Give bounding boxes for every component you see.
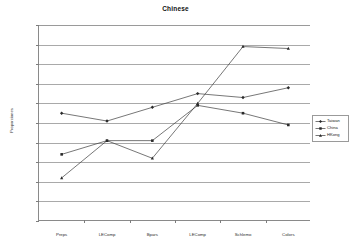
legend-label: China	[327, 126, 338, 130]
legend-item-china[interactable]: China	[314, 125, 347, 132]
legend-label: HKong	[327, 133, 340, 137]
data-point	[60, 112, 63, 115]
data-point	[151, 139, 154, 142]
legend-label: Taiwan	[327, 119, 340, 123]
series-line	[62, 47, 289, 178]
legend-marker-icon	[315, 119, 326, 124]
y-axis-label: Proporciones	[9, 86, 14, 156]
data-point	[287, 124, 290, 127]
series-hkong	[60, 45, 290, 179]
data-point	[60, 153, 63, 156]
series-layer	[39, 25, 311, 221]
data-point	[242, 112, 245, 115]
data-point	[241, 96, 244, 99]
data-point	[196, 92, 199, 95]
legend-marker-icon	[315, 133, 326, 138]
series-taiwan	[60, 86, 290, 123]
series-china	[60, 104, 289, 156]
legend-marker-icon	[315, 126, 326, 131]
data-point	[287, 86, 290, 89]
chart-legend: TaiwanChinaHKong	[312, 115, 349, 142]
legend-item-taiwan[interactable]: Taiwan	[314, 118, 347, 125]
chart-title: Chinese	[0, 5, 351, 12]
legend-item-hkong[interactable]: HKong	[314, 132, 347, 139]
data-point	[151, 106, 154, 109]
x-tick-label: Colors	[258, 232, 318, 237]
data-point	[105, 119, 108, 122]
y-tick-mark	[36, 221, 39, 222]
chart-container: Chinese Proporciones 00.10.20.30.40.50.6…	[0, 0, 351, 246]
plot-area: 00.10.20.30.40.50.60.70.80.91 PrepsLECom…	[38, 25, 310, 221]
series-line	[62, 105, 289, 154]
